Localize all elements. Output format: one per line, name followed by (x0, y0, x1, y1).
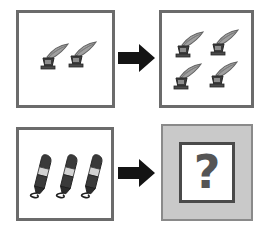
panel-answer-unknown[interactable]: ? (161, 124, 253, 221)
quill-icon (65, 41, 99, 75)
quill-icon (170, 63, 204, 97)
pen-icon (81, 152, 107, 202)
question-mark-label: ? (194, 149, 221, 195)
answer-box[interactable]: ? (179, 142, 235, 203)
analogy-puzzle: ? (0, 0, 267, 248)
pen-group-three (19, 130, 111, 218)
quill-group-two (19, 13, 112, 105)
quill-icon (206, 61, 240, 95)
quill-icon (207, 29, 241, 63)
panel-top-right[interactable] (159, 10, 254, 108)
quill-group-four (162, 13, 251, 105)
arrow-right-icon (118, 158, 156, 188)
pen-icon (56, 152, 82, 202)
pen-icon (30, 152, 56, 202)
arrow-right-icon (118, 43, 156, 73)
panel-bottom-left[interactable] (16, 127, 114, 221)
quill-icon (172, 31, 206, 65)
panel-top-left[interactable] (16, 10, 115, 108)
